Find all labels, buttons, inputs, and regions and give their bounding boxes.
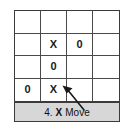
board-cell-r1c3[interactable]	[67, 11, 93, 34]
caption-action: Move	[65, 107, 89, 118]
board-cell-r4c2[interactable]: X	[41, 79, 67, 102]
board-cell-r3c2[interactable]: 0	[41, 56, 67, 79]
board-cell-r1c2[interactable]	[41, 11, 67, 34]
board-cell-r1c1[interactable]	[15, 11, 41, 34]
board-cell-r1c4[interactable]	[93, 11, 119, 34]
board-cell-r3c4[interactable]	[93, 56, 119, 79]
board-cell-r2c4[interactable]	[93, 34, 119, 57]
board-cell-r4c4[interactable]	[93, 79, 119, 102]
figure-caption: 4. X Move	[14, 102, 120, 122]
board-cell-r2c2[interactable]: X	[41, 34, 67, 57]
caption-step-number: 4.	[44, 107, 52, 118]
tic-tac-toe-figure: X 0 0 0 X 4. X Move	[14, 10, 120, 122]
board-cell-r3c3[interactable]	[67, 56, 93, 79]
board-cell-r4c3[interactable]	[67, 79, 93, 102]
board-cell-r2c1[interactable]	[15, 34, 41, 57]
board-cell-r2c3[interactable]: 0	[67, 34, 93, 57]
board-cell-r4c1[interactable]: 0	[15, 79, 41, 102]
board-cell-r3c1[interactable]	[15, 56, 41, 79]
caption-mark: X	[56, 107, 63, 118]
game-board[interactable]: X 0 0 0 X	[14, 10, 120, 102]
